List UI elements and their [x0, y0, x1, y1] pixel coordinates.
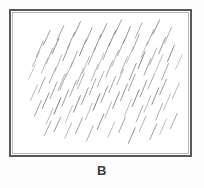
plot-frame — [9, 9, 192, 157]
panel-label: B — [0, 163, 204, 179]
figure-panel: B — [0, 0, 204, 188]
hatch-stroke-field — [11, 11, 190, 155]
